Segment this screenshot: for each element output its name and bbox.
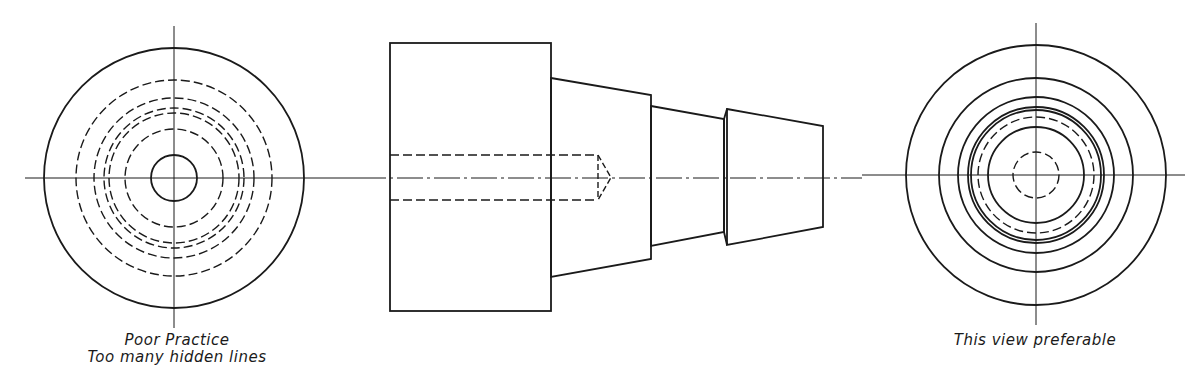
- left-end-view: [44, 26, 304, 328]
- base-block: [390, 43, 551, 311]
- center-lines: [25, 175, 1185, 178]
- caption-line-2: Too many hidden lines: [82, 349, 272, 366]
- left-view-caption: Poor Practice Too many hidden lines: [82, 332, 272, 366]
- orthographic-drawing: [0, 0, 1204, 379]
- caption-line-1: This view preferable: [930, 332, 1140, 349]
- right-end-view: [906, 23, 1166, 325]
- cone-section: [727, 109, 823, 245]
- caption-line-1: Poor Practice: [82, 332, 272, 349]
- cone-section: [651, 106, 724, 246]
- right-view-caption: This view preferable: [930, 332, 1140, 349]
- front-view: [390, 43, 823, 311]
